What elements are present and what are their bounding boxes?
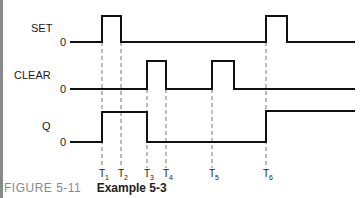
- figure-caption: FIGURE 5-11 Example 5-3: [4, 181, 167, 195]
- set-waveform: [70, 16, 355, 42]
- signal-label-set: SET: [31, 22, 52, 34]
- time-label-t3: T3: [144, 168, 154, 181]
- timing-diagram: [0, 0, 363, 198]
- figure-number: FIGURE 5-11: [4, 181, 81, 195]
- time-label-t2: T2: [118, 168, 128, 181]
- time-label-t6: T6: [263, 168, 273, 181]
- figure-title: Example 5-3: [97, 181, 167, 195]
- time-marker-lines: [102, 42, 266, 168]
- time-label-t5: T5: [209, 168, 219, 181]
- signal-label-q: Q: [42, 120, 51, 132]
- zero-label-q: 0: [60, 136, 66, 148]
- signal-label-clear: CLEAR: [14, 69, 51, 81]
- time-label-t1: T1: [99, 168, 109, 181]
- clear-waveform: [70, 61, 355, 89]
- time-label-t4: T4: [163, 168, 173, 181]
- zero-label-clear: 0: [60, 83, 66, 95]
- zero-label-set: 0: [60, 36, 66, 48]
